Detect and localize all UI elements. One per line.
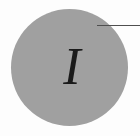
decorative-initial-figure: I	[0, 0, 140, 136]
drop-cap-initial: I	[0, 0, 140, 136]
